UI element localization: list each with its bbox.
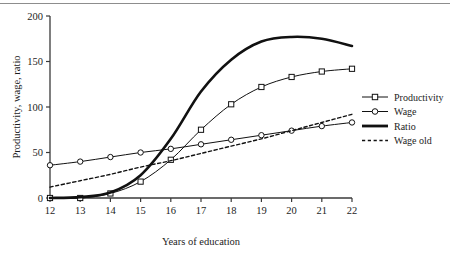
data-point-marker [259, 133, 264, 138]
legend-label: Wage old [394, 135, 432, 146]
y-tick-label: 200 [27, 11, 43, 22]
data-point-marker [229, 102, 234, 107]
legend-label: Productivity [394, 92, 443, 103]
chart-figure: 050100150200 1213141516171819202122 Year… [0, 0, 450, 256]
data-point-marker [138, 179, 143, 184]
x-tick-label: 17 [196, 205, 207, 216]
series-line-wage-old [50, 114, 352, 187]
x-axis-ticks: 1213141516171819202122 [45, 198, 358, 216]
series-line-ratio [50, 37, 352, 198]
y-tick-label: 150 [27, 56, 43, 67]
legend-label: Wage [394, 106, 417, 117]
x-axis-title: Years of education [162, 236, 241, 247]
data-point-marker [229, 137, 234, 142]
chart-legend: ProductivityWageRatioWage old [362, 92, 443, 147]
x-tick-label: 15 [135, 205, 146, 216]
data-point-marker [198, 142, 203, 147]
data-point-marker [108, 154, 113, 159]
data-point-marker [78, 159, 83, 164]
data-point-marker [198, 127, 203, 132]
legend-entry-productivity[interactable]: Productivity [362, 92, 443, 103]
y-axis-title: Productivity, wage, ratio [11, 55, 22, 158]
series-line-productivity [50, 69, 352, 199]
y-tick-label: 100 [27, 102, 43, 113]
data-point-marker [319, 123, 324, 128]
data-point-marker [319, 69, 324, 74]
y-tick-label: 0 [38, 193, 43, 204]
data-point-marker [168, 146, 173, 151]
chart-plot-area: 050100150200 1213141516171819202122 Year… [0, 0, 450, 256]
x-tick-label: 13 [75, 205, 86, 216]
legend-entry-wage[interactable]: Wage [362, 106, 417, 117]
x-tick-label: 14 [105, 205, 116, 216]
legend-entry-wage-old[interactable]: Wage old [362, 135, 432, 146]
legend-marker-circle [372, 109, 378, 115]
y-tick-label: 50 [33, 147, 44, 158]
axes-group [50, 16, 352, 198]
x-tick-label: 19 [256, 205, 267, 216]
x-tick-label: 12 [45, 205, 56, 216]
data-point-marker [259, 84, 264, 89]
x-tick-label: 16 [166, 205, 177, 216]
data-point-marker [349, 66, 354, 71]
data-point-marker [47, 163, 52, 168]
x-tick-label: 18 [226, 205, 237, 216]
data-point-marker [138, 150, 143, 155]
legend-label: Ratio [394, 121, 416, 132]
x-tick-label: 20 [286, 205, 297, 216]
x-tick-label: 22 [347, 205, 358, 216]
legend-entry-ratio[interactable]: Ratio [362, 121, 416, 132]
data-point-marker [349, 120, 354, 125]
y-axis-ticks: 050100150200 [27, 11, 50, 204]
data-series-group [47, 37, 354, 201]
data-point-marker [289, 74, 294, 79]
legend-marker-square [372, 94, 377, 99]
x-tick-label: 21 [317, 205, 328, 216]
